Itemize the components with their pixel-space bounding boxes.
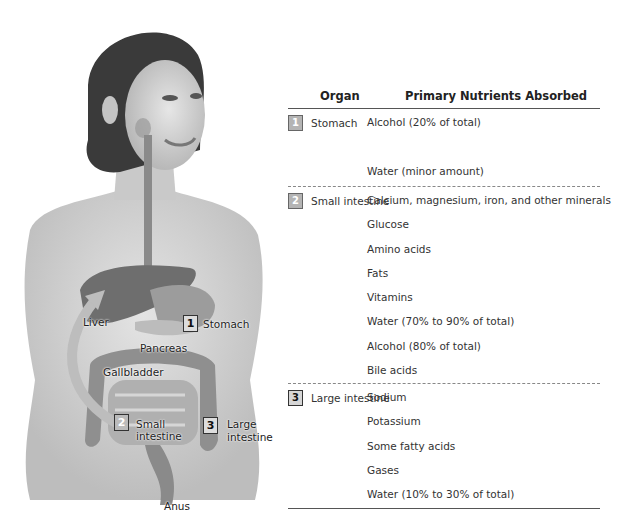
nutrient-item: Gases [367, 463, 600, 487]
organ-cell: 2 Small intestine [288, 193, 389, 209]
label-small-intestine-1: Small [136, 418, 165, 430]
nutrient-item: Vitamins [367, 290, 600, 314]
anatomy-drawing [0, 0, 285, 523]
nutrient-absorption-table: Organ Primary Nutrients Absorbed 1 Stoma… [288, 80, 600, 509]
nutrient-item: Alcohol (20% of total) [367, 115, 600, 139]
label-large-intestine-1: Large [227, 418, 257, 430]
number-badge: 2 [288, 193, 303, 209]
table-row-stomach: 1 Stomach Alcohol (20% of total) Water (… [288, 109, 600, 187]
nutrient-item: Calcium, magnesium, iron, and other mine… [367, 193, 600, 217]
label-liver: Liver [83, 316, 109, 328]
nutrient-item: Some fatty acids [367, 439, 600, 463]
nutrient-item: Amino acids [367, 242, 600, 266]
badge-large-intestine: 3 [203, 417, 218, 434]
header-nutrients: Primary Nutrients Absorbed [405, 89, 587, 103]
organ-name: Small intestine [311, 195, 389, 207]
nutrient-item: Potassium [367, 414, 600, 438]
nutrient-item: Alcohol (80% of total) [367, 339, 600, 363]
table-row-small-intestine: 2 Small intestine Calcium, magnesium, ir… [288, 187, 600, 384]
label-small-intestine-2: intestine [136, 430, 182, 442]
nutrient-list: Alcohol (20% of total) Water (minor amou… [367, 109, 600, 188]
number-badge: 1 [288, 115, 303, 131]
table-row-large-intestine: 3 Large intestine Sodium Potassium Some … [288, 384, 600, 509]
organ-name: Stomach [311, 117, 357, 129]
label-pancreas: Pancreas [140, 342, 187, 354]
nutrient-list: Sodium Potassium Some fatty acids Gases … [367, 384, 600, 511]
organ-cell: 1 Stomach [288, 115, 357, 131]
label-gallbladder: Gallbladder [103, 366, 164, 378]
nutrient-item: Water (70% to 90% of total) [367, 314, 600, 338]
table-header: Organ Primary Nutrients Absorbed [288, 80, 600, 109]
nutrient-item: Water (10% to 30% of total) [367, 487, 600, 511]
badge-stomach: 1 [183, 315, 198, 332]
header-organ: Organ [320, 89, 360, 103]
nutrient-list: Calcium, magnesium, iron, and other mine… [367, 187, 600, 387]
label-stomach: Stomach [203, 318, 249, 330]
nutrient-item: Fats [367, 266, 600, 290]
nutrient-item: Water (minor amount) [367, 164, 600, 188]
organ-cell: 3 Large intestine [288, 390, 390, 406]
label-large-intestine-2: intestine [227, 431, 273, 443]
nutrient-item: Glucose [367, 217, 600, 241]
nutrient-spacer [367, 139, 600, 163]
number-badge: 3 [288, 390, 303, 406]
digestive-system-illustration: Liver 1 Stomach Pancreas Gallbladder 2 S… [0, 0, 285, 523]
badge-small-intestine: 2 [114, 414, 129, 431]
nutrient-item: Sodium [367, 390, 600, 414]
label-anus: Anus [164, 500, 190, 512]
organ-name: Large intestine [311, 392, 390, 404]
